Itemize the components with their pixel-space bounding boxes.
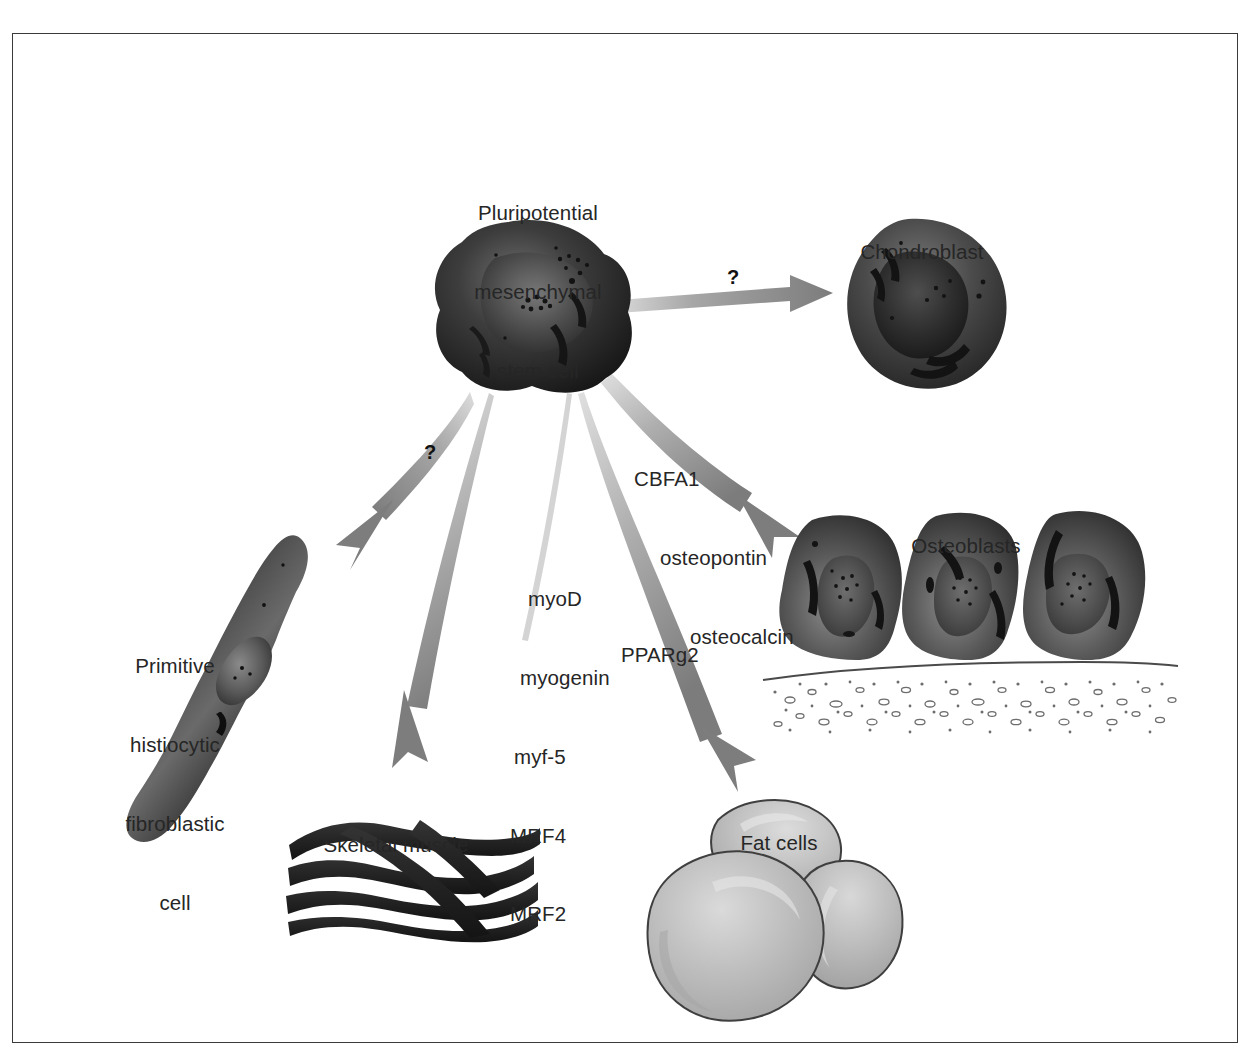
arrow-to-chondroblast [618, 275, 833, 313]
skeletal-muscle-label: Skeletal muscle [323, 780, 468, 911]
figure-root: Pluripotential mesenchymal stem cell Cho… [0, 0, 1247, 1064]
stem-cell-label-line-1: Pluripotential [474, 200, 602, 226]
fibroblast-arrow-question-mark: ? [424, 441, 436, 464]
muscle-gene-line-3: myf-5 [510, 744, 610, 770]
chondroblast-label-line-1: Chondroblast [860, 239, 983, 265]
fat-gene-label: PPARg2 [621, 590, 699, 721]
stem-cell-label-line-2: mesenchymal [474, 279, 602, 305]
fibroblast-label-line-2: histiocytic [125, 732, 224, 758]
stem-cell-label: Pluripotential mesenchymal stem cell [474, 148, 602, 437]
osteoblasts-label: Osteoblasts [911, 481, 1020, 612]
fibroblast-label-line-1: Primitive [125, 653, 224, 679]
skeletal-muscle-label-line-1: Skeletal muscle [323, 832, 468, 858]
muscle-gene-line-5: MRF2 [510, 901, 610, 927]
fibroblast-label-line-3: fibroblastic [125, 811, 224, 837]
stem-cell-label-line-3: stem cell [474, 358, 602, 384]
osteoblast-gene-line-1: CBFA1 [634, 466, 794, 492]
fat-cells-label: Fat cells [740, 778, 817, 909]
fat-cells-label-line-1: Fat cells [740, 830, 817, 856]
muscle-gene-label: myoD myogenin myf-5 MRF4 MRF2 [510, 534, 610, 980]
fat-gene-line-1: PPARg2 [621, 642, 699, 668]
fibroblast-label: Primitive histiocytic fibroblastic cell [125, 601, 224, 968]
muscle-gene-line-4: MRF4 [510, 823, 610, 849]
osteoblast-cell-3 [1023, 511, 1145, 660]
osteoblasts-label-line-1: Osteoblasts [911, 533, 1020, 559]
chondroblast-arrow-question-mark: ? [727, 266, 739, 289]
osteoblast-gene-line-2: osteopontin [634, 545, 794, 571]
chondroblast-label: Chondroblast [860, 187, 983, 318]
muscle-gene-line-2: myogenin [510, 665, 610, 691]
osteoblast-cell-1 [779, 515, 902, 660]
fibroblast-label-line-4: cell [125, 890, 224, 916]
muscle-gene-line-1: myoD [510, 586, 610, 612]
bone-matrix-band [763, 662, 1178, 733]
